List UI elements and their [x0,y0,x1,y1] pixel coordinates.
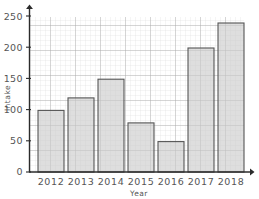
bar-2015 [128,123,154,172]
x-tick-label-2017: 2017 [188,176,215,187]
y-tick-label-250: 250 [4,11,23,22]
y-axis-title: Intake [3,85,12,111]
x-tick-label-2012: 2012 [38,176,65,187]
x-axis-title: Year [129,189,148,198]
chart-canvas: 0 50 100 150 200 250 2012 2013 2014 2015… [0,0,259,199]
x-tick-labels: 2012 2013 2014 2015 2016 2017 2018 [38,176,245,187]
bar-2016 [158,142,184,172]
bar-2012 [38,110,64,172]
bar-chart: 0 50 100 150 200 250 2012 2013 2014 2015… [0,0,259,199]
bar-2013 [68,98,94,172]
bar-2018 [218,23,244,172]
y-tick-label-50: 50 [10,135,23,146]
y-tick-label-150: 150 [4,73,23,84]
bar-2017 [188,48,214,172]
x-tick-label-2016: 2016 [158,176,185,187]
x-tick-label-2014: 2014 [98,176,125,187]
y-tick-label-200: 200 [4,42,23,53]
bar-2014 [98,79,124,172]
x-tick-label-2015: 2015 [128,176,155,187]
x-tick-label-2013: 2013 [68,176,95,187]
y-tick-label-0: 0 [17,166,23,177]
x-tick-label-2018: 2018 [218,176,245,187]
